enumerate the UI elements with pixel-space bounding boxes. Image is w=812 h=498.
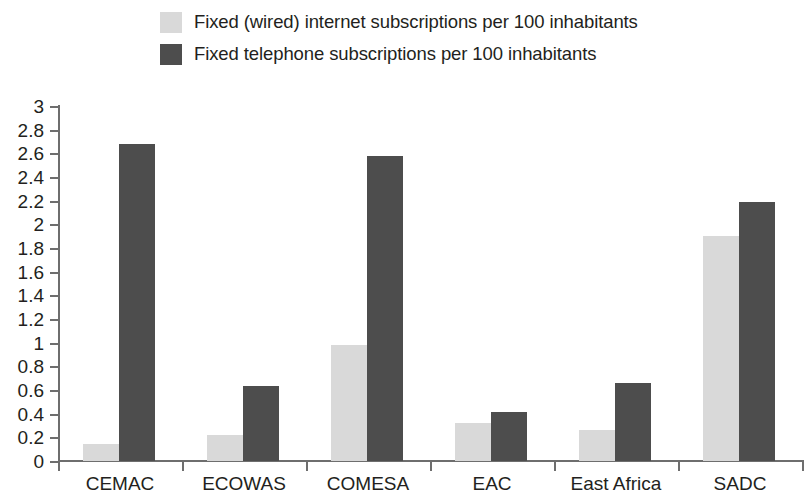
bar-ecowas-series-0	[207, 435, 243, 461]
y-axis-tick-mark	[50, 224, 58, 226]
bar-sadc-series-0	[703, 236, 739, 461]
bar-east-africa-series-1	[615, 383, 651, 461]
y-axis-tick-label: 1.4	[0, 286, 44, 305]
bar-group	[184, 106, 308, 461]
bar-ecowas-series-1	[243, 386, 279, 461]
y-axis-tick-label: 0	[0, 452, 44, 471]
x-axis-tick-mark	[430, 462, 432, 471]
x-axis-tick-mark	[58, 462, 60, 471]
y-axis-tick-mark	[50, 437, 58, 439]
y-axis-tick-mark	[50, 130, 58, 132]
bar-cemac-series-1	[119, 144, 155, 461]
y-axis-tick-mark	[50, 343, 58, 345]
x-axis-tick-mark	[802, 462, 804, 471]
bar-eac-series-1	[491, 412, 527, 461]
bar-east-africa-series-0	[579, 430, 615, 461]
y-axis-tick-label: 1	[0, 333, 44, 352]
y-axis-tick-mark	[50, 248, 58, 250]
y-axis-tick-mark	[50, 201, 58, 203]
bar-cemac-series-0	[83, 444, 119, 461]
y-axis-tick-label: 0.4	[0, 404, 44, 423]
bar-group	[432, 106, 556, 461]
y-axis-tick-label: 1.6	[0, 262, 44, 281]
bar-comesa-series-0	[331, 345, 367, 461]
y-axis-tick-label: 2.4	[0, 168, 44, 187]
y-axis-tick-label: 0.6	[0, 381, 44, 400]
y-axis-tick-mark	[50, 272, 58, 274]
bar-eac-series-0	[455, 423, 491, 461]
bar-plot-area	[60, 106, 804, 461]
x-axis-label-ecowas: ECOWAS	[182, 472, 306, 496]
y-axis-tick-label: 2.2	[0, 191, 44, 210]
x-axis-labels: CEMACECOWASCOMESAEACEast AfricaSADC	[58, 472, 804, 498]
y-axis-tick-mark	[50, 106, 58, 108]
y-axis-tick-label: 0.2	[0, 428, 44, 447]
y-axis-tick-label: 1.2	[0, 310, 44, 329]
bar-chart: 00.20.40.60.811.21.41.61.822.22.42.62.83…	[0, 0, 812, 498]
y-axis-tick-mark	[50, 461, 58, 463]
x-axis-tick-mark	[554, 462, 556, 471]
bar-group	[308, 106, 432, 461]
y-axis-tick-mark	[50, 414, 58, 416]
x-axis-label-sadc: SADC	[678, 472, 802, 496]
y-axis-tick-label: 0.8	[0, 357, 44, 376]
bar-group	[680, 106, 804, 461]
bar-group	[60, 106, 184, 461]
y-axis-labels: 00.20.40.60.811.21.41.61.822.22.42.62.83	[0, 96, 44, 468]
y-axis-tick-label: 2.8	[0, 120, 44, 139]
y-axis-tick-mark	[50, 295, 58, 297]
y-axis-tick-label: 1.8	[0, 239, 44, 258]
bar-comesa-series-1	[367, 156, 403, 461]
bar-group	[556, 106, 680, 461]
x-axis-label-cemac: CEMAC	[58, 472, 182, 496]
y-axis-tick-mark	[50, 366, 58, 368]
y-axis-tick-mark	[50, 319, 58, 321]
y-axis-tick-mark	[50, 153, 58, 155]
x-axis-tick-mark	[306, 462, 308, 471]
bar-sadc-series-1	[739, 202, 775, 461]
y-axis-tick-mark	[50, 390, 58, 392]
y-axis-tick-mark	[50, 177, 58, 179]
y-axis-tick-label: 2	[0, 215, 44, 234]
x-axis-label-east-africa: East Africa	[554, 472, 678, 496]
x-axis-tick-mark	[678, 462, 680, 471]
x-axis-label-eac: EAC	[430, 472, 554, 496]
x-axis-tick-mark	[182, 462, 184, 471]
x-axis-label-comesa: COMESA	[306, 472, 430, 496]
y-axis-tick-label: 2.6	[0, 144, 44, 163]
y-axis-tick-label: 3	[0, 97, 44, 116]
